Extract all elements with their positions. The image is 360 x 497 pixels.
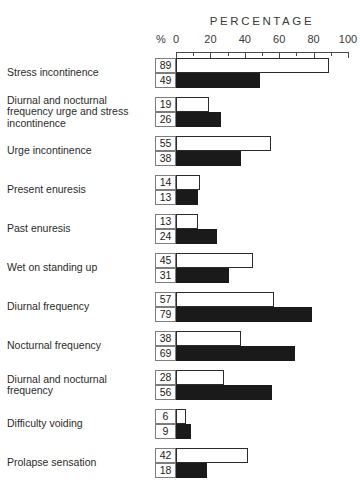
value-box-filled: 31 bbox=[155, 268, 176, 283]
value-box-filled: 13 bbox=[155, 190, 176, 205]
chart-category-group: Present enuresis1413 bbox=[0, 175, 360, 214]
x-tick-label-0: 0 bbox=[173, 33, 179, 45]
x-tick-mark-70 bbox=[296, 53, 297, 56]
value-box-open: 6 bbox=[155, 409, 176, 424]
bar-open bbox=[176, 292, 274, 307]
bar-filled bbox=[176, 463, 207, 478]
x-tick-label-60: 60 bbox=[273, 33, 285, 45]
value-box-open: 42 bbox=[155, 448, 176, 463]
bar-open bbox=[176, 214, 198, 229]
chart-category-group: Stress incontinence8949 bbox=[0, 58, 360, 97]
category-label: Wet on standing up bbox=[7, 262, 147, 274]
bar-filled bbox=[176, 307, 312, 322]
category-label: Diurnal and nocturnal frequency bbox=[7, 374, 147, 397]
chart-category-group: Diurnal and nocturnal frequency urge and… bbox=[0, 97, 360, 136]
category-label: Stress incontinence bbox=[7, 67, 147, 79]
category-label: Present enuresis bbox=[7, 184, 147, 196]
percent-unit-label: % bbox=[156, 33, 166, 45]
chart-category-group: Past enuresis1324 bbox=[0, 214, 360, 253]
bar-filled bbox=[176, 190, 198, 205]
chart-plot-area: Stress incontinence8949Diurnal and noctu… bbox=[0, 58, 360, 487]
bar-open bbox=[176, 448, 248, 463]
value-box-open: 19 bbox=[155, 97, 176, 112]
category-label: Prolapse sensation bbox=[7, 457, 147, 469]
percentage-bar-chart: PERCENTAGE % 020406080100 Stress inconti… bbox=[0, 0, 360, 497]
value-box-open: 28 bbox=[155, 370, 176, 385]
value-box-open: 45 bbox=[155, 253, 176, 268]
bar-filled bbox=[176, 424, 191, 439]
chart-category-group: Urge incontinence5538 bbox=[0, 136, 360, 175]
chart-title: PERCENTAGE bbox=[176, 15, 348, 27]
category-label: Nocturnal frequency bbox=[7, 340, 147, 352]
bar-filled bbox=[176, 229, 217, 244]
value-box-open: 57 bbox=[155, 292, 176, 307]
chart-category-group: Wet on standing up4531 bbox=[0, 253, 360, 292]
x-tick-label-100: 100 bbox=[339, 33, 357, 45]
x-tick-label-80: 80 bbox=[307, 33, 319, 45]
value-box-open: 38 bbox=[155, 331, 176, 346]
bar-open bbox=[176, 409, 186, 424]
bar-filled bbox=[176, 151, 241, 166]
x-tick-label-20: 20 bbox=[204, 33, 216, 45]
category-label: Difficulty voiding bbox=[7, 418, 147, 430]
value-box-open: 89 bbox=[155, 58, 176, 73]
category-label: Urge incontinence bbox=[7, 145, 147, 157]
bar-filled bbox=[176, 268, 229, 283]
value-box-filled: 69 bbox=[155, 346, 176, 361]
value-box-filled: 9 bbox=[155, 424, 176, 439]
bar-filled bbox=[176, 73, 260, 88]
value-box-filled: 26 bbox=[155, 112, 176, 127]
bar-open bbox=[176, 370, 224, 385]
category-label: Diurnal and nocturnal frequency urge and… bbox=[7, 95, 147, 130]
chart-category-group: Difficulty voiding69 bbox=[0, 409, 360, 448]
value-box-filled: 56 bbox=[155, 385, 176, 400]
bar-open bbox=[176, 331, 241, 346]
x-tick-mark-50 bbox=[262, 53, 263, 56]
x-tick-mark-30 bbox=[228, 53, 229, 56]
value-box-filled: 49 bbox=[155, 73, 176, 88]
bar-open bbox=[176, 175, 200, 190]
category-label: Diurnal frequency bbox=[7, 301, 147, 313]
x-tick-mark-10 bbox=[193, 53, 194, 56]
value-box-open: 55 bbox=[155, 136, 176, 151]
bar-filled bbox=[176, 112, 221, 127]
value-box-filled: 79 bbox=[155, 307, 176, 322]
value-box-filled: 24 bbox=[155, 229, 176, 244]
bar-filled bbox=[176, 346, 295, 361]
bar-open bbox=[176, 253, 253, 268]
chart-category-group: Diurnal and nocturnal frequency2856 bbox=[0, 370, 360, 409]
bar-open bbox=[176, 97, 209, 112]
bar-open bbox=[176, 136, 271, 151]
bar-filled bbox=[176, 385, 272, 400]
value-box-open: 13 bbox=[155, 214, 176, 229]
value-box-filled: 38 bbox=[155, 151, 176, 166]
x-tick-mark-90 bbox=[331, 53, 332, 56]
bar-open bbox=[176, 58, 329, 73]
chart-category-group: Prolapse sensation4218 bbox=[0, 448, 360, 487]
value-box-filled: 18 bbox=[155, 463, 176, 478]
chart-category-group: Diurnal frequency5779 bbox=[0, 292, 360, 331]
category-label: Past enuresis bbox=[7, 223, 147, 235]
value-box-open: 14 bbox=[155, 175, 176, 190]
x-tick-label-40: 40 bbox=[239, 33, 251, 45]
chart-category-group: Nocturnal frequency3869 bbox=[0, 331, 360, 370]
